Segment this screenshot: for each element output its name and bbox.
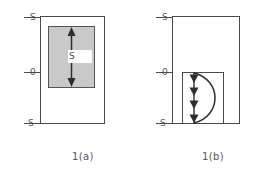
magnitude-callout-label-a: S — [68, 52, 75, 61]
panel-caption-b: 1(b) — [202, 152, 224, 162]
inner-rectangle-b — [182, 72, 224, 124]
panel-caption-a: 1(a) — [72, 152, 94, 162]
magnitude-callout-a: S — [68, 50, 92, 63]
figure-root: S 0 -S S 1(a) S 0 -S — [0, 0, 264, 178]
figure-panel-b: S 0 -S 1(b) — [132, 0, 264, 178]
figure-panel-a: S 0 -S S 1(a) — [0, 0, 132, 178]
